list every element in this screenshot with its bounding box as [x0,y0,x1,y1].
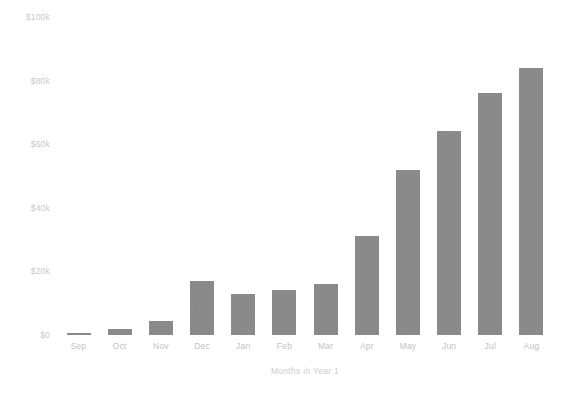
x-axis-tick-labels: SepOctNovDecJanFebMarAprMayJunJulAug [58,341,552,351]
bar [231,294,255,335]
bar-slot [264,17,305,335]
bar-group [58,17,552,335]
bar-slot [429,17,470,335]
x-axis-title: Months in Year 1 [58,366,552,376]
plot-area [58,17,552,335]
bar-slot [346,17,387,335]
bar-chart: $0$20k$40k$60k$80k$100k SepOctNovDecJanF… [0,0,564,394]
x-axis-tick-label: May [387,341,428,351]
y-axis-tick-label: $80k [31,76,50,86]
x-axis-tick-label: Aug [511,341,552,351]
bar [190,281,214,335]
x-axis-tick-label: Nov [140,341,181,351]
bar-slot [99,17,140,335]
y-axis: $0$20k$40k$60k$80k$100k [0,0,58,394]
bar [396,170,420,335]
y-axis-tick-label: $40k [31,203,50,213]
bar-slot [58,17,99,335]
x-axis-tick-label: Oct [99,341,140,351]
x-axis-tick-label: Jun [429,341,470,351]
bar [108,329,132,335]
bar-slot [223,17,264,335]
bar [314,284,338,335]
bar [519,68,543,335]
bar [478,93,502,335]
y-axis-tick-label: $0 [40,330,50,340]
x-axis-tick-label: Jul [470,341,511,351]
bar-slot [511,17,552,335]
bar-slot [140,17,181,335]
bar-slot [182,17,223,335]
bar [272,290,296,335]
bar [149,321,173,335]
bar-slot [305,17,346,335]
bar [437,131,461,335]
x-axis-tick-label: Sep [58,341,99,351]
x-axis-tick-label: Apr [346,341,387,351]
x-axis-tick-label: Jan [223,341,264,351]
bar-slot [470,17,511,335]
x-axis-tick-label: Feb [264,341,305,351]
y-axis-tick-label: $60k [31,139,50,149]
bar [355,236,379,335]
x-axis-tick-label: Mar [305,341,346,351]
x-axis-tick-label: Dec [182,341,223,351]
y-axis-tick-label: $100k [26,12,50,22]
y-axis-tick-label: $20k [31,266,50,276]
bar-slot [387,17,428,335]
bar [67,333,91,335]
